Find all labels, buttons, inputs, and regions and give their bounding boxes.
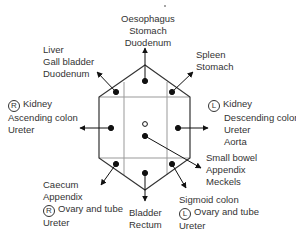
umbilicus-marker — [143, 122, 148, 127]
label-top: Oesophagus Stomach Duodenum — [121, 13, 175, 49]
label-upper-left: Liver Gall bladder Duodenum — [43, 44, 94, 80]
label-center: Small bowel Appendix Meckels — [206, 152, 257, 188]
label-right: LKidney Descending colon Ureter Aorta — [208, 98, 296, 148]
right-side-marker: R — [43, 205, 55, 217]
label-lower-right: Sigmoid colon LOvary and tube Ureter — [179, 194, 259, 232]
label-left: RKidney Ascending colon Ureter — [8, 98, 78, 136]
left-side-marker: L — [208, 100, 220, 112]
label-bottom: Bladder Rectum — [129, 207, 162, 231]
right-side-marker: R — [8, 100, 20, 112]
left-side-marker: L — [179, 208, 191, 220]
label-lower-left: Caecum Appendix ROvary and tube Ureter — [43, 179, 123, 229]
label-upper-right: Spleen Stomach — [196, 49, 234, 73]
